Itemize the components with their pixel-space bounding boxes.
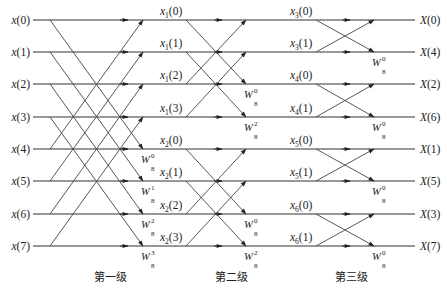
node-label: x6(1) — [289, 231, 312, 246]
output-label-5: X(5) — [419, 175, 441, 188]
twiddle-factor: W — [244, 219, 254, 230]
node-label: x4(0) — [289, 69, 312, 84]
node-label: x5(0) — [289, 134, 312, 149]
twiddle-subscript: 8 — [382, 68, 386, 76]
input-label-5: x(5) — [10, 175, 30, 188]
twiddle-exponent: 0 — [382, 120, 386, 128]
node-label: x2(2) — [159, 199, 182, 214]
signal-lines — [33, 20, 415, 246]
input-label-4: x(4) — [10, 143, 30, 156]
input-label-2: x(2) — [10, 78, 30, 91]
twiddle-subscript: 8 — [254, 230, 258, 238]
output-labels: X(0)X(4)X(2)X(6)X(1)X(5)X(3)X(7) — [419, 14, 441, 253]
output-label-0: X(0) — [419, 14, 441, 27]
output-label-6: X(3) — [419, 208, 441, 221]
twiddle-factor: W — [244, 251, 254, 262]
node-label: x1(3) — [159, 102, 182, 117]
input-labels: x(0)x(1)x(2)x(3)x(4)x(5)x(6)x(7) — [10, 14, 30, 253]
twiddle-subscript: 8 — [382, 133, 386, 141]
node-label: x2(1) — [159, 166, 182, 181]
twiddle-factor: W — [141, 154, 151, 165]
twiddle-exponent: 2 — [254, 120, 258, 128]
twiddle-subscript: 8 — [151, 197, 155, 205]
node-label: x4(1) — [289, 102, 312, 117]
node-label: x2(0) — [159, 134, 182, 149]
twiddle-subscript: 8 — [382, 197, 386, 205]
twiddle-exponent: 3 — [151, 249, 155, 257]
stage-labels: 第一级 第二级 第三级 — [94, 270, 368, 284]
twiddle-subscript: 8 — [151, 262, 155, 270]
node-label: x2(3) — [159, 231, 182, 246]
twiddle-exponent: 0 — [382, 184, 386, 192]
twiddle-exponent: 0 — [382, 249, 386, 257]
twiddle-subscript: 8 — [382, 262, 386, 270]
twiddle-exponent: 0 — [254, 87, 258, 95]
node-label: x5(1) — [289, 166, 312, 181]
twiddle-exponent: 1 — [151, 184, 155, 192]
twiddle-factor: W — [372, 251, 382, 262]
twiddle-exponent: 2 — [254, 249, 258, 257]
twiddle-subscript: 8 — [254, 133, 258, 141]
output-label-1: X(4) — [419, 46, 441, 59]
output-label-7: X(7) — [419, 240, 441, 253]
stage-3-label: 第三级 — [335, 270, 368, 284]
twiddle-factor: W — [244, 89, 254, 100]
twiddle-subscript: 8 — [254, 100, 258, 108]
twiddle-exponent: 0 — [254, 217, 258, 225]
input-label-1: x(1) — [10, 46, 30, 59]
node-label: x1(2) — [159, 69, 182, 84]
intermediate-node-labels: x1(0)x1(1)x1(2)x1(3)x2(0)x2(1)x2(2)x2(3)… — [159, 5, 312, 246]
input-label-3: x(3) — [10, 111, 30, 124]
node-label: x6(0) — [289, 199, 312, 214]
twiddle-exponent: 0 — [382, 55, 386, 63]
twiddle-factor: W — [141, 251, 151, 262]
twiddle-exponent: 0 — [151, 152, 155, 160]
twiddle-subscript: 8 — [151, 165, 155, 173]
fft-butterfly-diagram: x(0)x(1)x(2)x(3)x(4)x(5)x(6)x(7) X(0)X(4… — [0, 0, 447, 297]
twiddle-factor: W — [372, 122, 382, 133]
node-label: x3(0) — [289, 5, 312, 20]
input-label-0: x(0) — [10, 14, 30, 27]
twiddle-subscript: 8 — [254, 262, 258, 270]
output-label-2: X(2) — [419, 78, 441, 91]
input-label-6: x(6) — [10, 208, 30, 221]
node-label: x3(1) — [289, 37, 312, 52]
twiddle-subscript: 8 — [151, 230, 155, 238]
twiddle-factor: W — [372, 186, 382, 197]
twiddle-factor: W — [372, 57, 382, 68]
input-label-7: x(7) — [10, 240, 30, 253]
twiddle-factor: W — [141, 186, 151, 197]
output-label-3: X(6) — [419, 111, 441, 124]
stage-1-label: 第一级 — [94, 270, 127, 284]
twiddle-factor: W — [141, 219, 151, 230]
node-label: x1(0) — [159, 5, 182, 20]
butterfly-crossings — [50, 20, 374, 246]
stage-2-label: 第二级 — [215, 270, 248, 284]
output-label-4: X(1) — [419, 143, 441, 156]
twiddle-factor: W — [244, 122, 254, 133]
node-label: x1(1) — [159, 37, 182, 52]
twiddle-exponent: 2 — [151, 217, 155, 225]
